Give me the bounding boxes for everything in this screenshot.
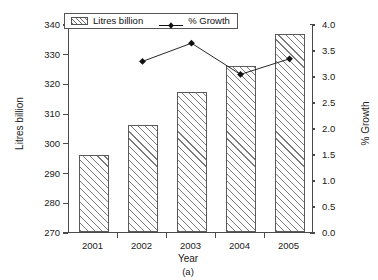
line-diamond-icon — [159, 16, 183, 25]
y-axis-right-tick-label: 0.5 — [322, 202, 356, 212]
x-axis-tick-mark — [117, 233, 118, 238]
x-axis-tick-mark — [264, 233, 265, 238]
chart-legend: Litres billion % Growth — [64, 13, 238, 29]
hatched-box-icon — [71, 17, 88, 25]
y-axis-right-tick-label: 3.0 — [322, 72, 356, 82]
y-axis-left-tick-label: 280 — [26, 198, 60, 208]
y-axis-left-title: Litres billion — [14, 69, 25, 179]
legend-item-growth: % Growth — [159, 16, 230, 26]
x-axis-tick-mark — [166, 233, 167, 238]
y-axis-right-tick-label: 2.0 — [322, 124, 356, 134]
y-axis-left-tick-label: 330 — [26, 50, 60, 60]
plot-area — [68, 25, 313, 233]
legend-label-litres-billion: Litres billion — [93, 16, 143, 26]
growth-marker — [139, 58, 146, 65]
growth-marker — [188, 40, 195, 47]
y-axis-right-tick-label: 2.5 — [322, 98, 356, 108]
y-axis-left-tick-label: 290 — [26, 169, 60, 179]
y-axis-left-tick-label: 270 — [26, 228, 60, 238]
legend-label-growth: % Growth — [188, 16, 230, 26]
growth-marker — [237, 71, 244, 78]
y-axis-right-title: % Growth — [360, 69, 371, 179]
figure-caption: (a) — [148, 266, 228, 277]
legend-item-litres-billion: Litres billion — [71, 16, 143, 26]
y-axis-right-tick-label: 1.0 — [322, 176, 356, 186]
y-axis-left-tick-label: 310 — [26, 109, 60, 119]
x-axis-tick-label: 2005 — [259, 240, 319, 251]
y-axis-right-tick-label: 0.0 — [322, 228, 356, 238]
y-axis-right-tick-label: 4.0 — [322, 20, 356, 30]
y-axis-left-tick-label: 340 — [26, 20, 60, 30]
x-axis-tick-mark — [215, 233, 216, 238]
y-axis-left-tick-label: 320 — [26, 79, 60, 89]
chart-figure: Litres billion % Growth Year (a) 2702802… — [0, 0, 378, 280]
line-series — [69, 25, 314, 233]
y-axis-right-tick-label: 3.5 — [322, 46, 356, 56]
growth-line-path — [143, 43, 290, 74]
y-axis-right-tick-label: 1.5 — [322, 150, 356, 160]
x-axis-title: Year — [148, 253, 228, 264]
y-axis-left-tick-label: 300 — [26, 139, 60, 149]
growth-marker — [286, 55, 293, 62]
